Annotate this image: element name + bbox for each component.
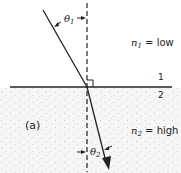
n1-label: n1 = low [131, 37, 174, 50]
theta1-arrowhead-left [54, 22, 59, 27]
refraction-diagram: θ1 θ2 n1 = low n2 = high 1 2 (a) [0, 0, 181, 173]
panel-label: (a) [25, 119, 40, 132]
medium-1-number: 1 [158, 72, 164, 82]
right-angle-marker [87, 80, 93, 87]
theta1-arrowhead-right [81, 16, 86, 20]
theta1-label: θ1 [64, 13, 75, 26]
medium-2-number: 2 [158, 90, 164, 100]
